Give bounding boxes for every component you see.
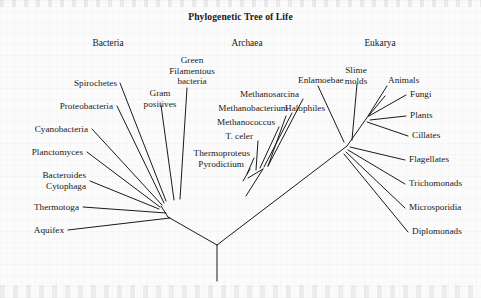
branch-root-to-bacteria — [168, 217, 217, 245]
taxon-label-diplomonads: Diplomonads — [412, 226, 481, 237]
taxon-label-flagellates: Flagellates — [409, 154, 481, 165]
taxon-label-aquifex: Aquifex — [0, 225, 64, 236]
branch-pyrodictium — [243, 169, 250, 181]
taxon-label-methanobacterium: Methanobacterium — [0, 103, 288, 114]
branch-t-celer — [256, 141, 258, 170]
taxon-label-cillates: Cillates — [412, 130, 481, 141]
branch-enlamoebae — [318, 86, 344, 142]
taxon-label-thermotoga: Thermotoga — [0, 202, 79, 213]
domain-label-bacteria: Bacteria — [48, 38, 168, 48]
branch-aquifex — [68, 218, 170, 230]
taxon-label-pyrodictium: Pyrodictium — [0, 159, 244, 170]
branch-microsporidia — [346, 152, 405, 208]
figure-canvas: Phylogenetic Tree of Life SpirochetesGra… — [0, 0, 481, 298]
branch-plants — [370, 116, 406, 120]
branch-trichomonads — [348, 150, 405, 184]
branch-thermotoga — [83, 207, 166, 213]
taxon-label-microsporidia: Microsporidia — [409, 202, 481, 213]
taxon-label-thermoproteus: Thermoproteus — [0, 148, 250, 159]
domain-label-archaea: Archaea — [187, 38, 307, 48]
branch-cillates — [367, 122, 408, 136]
taxon-label-green-filamentous-bacteria: Green Filamentous bacteria — [132, 55, 252, 87]
taxon-label-plants: Plants — [410, 110, 481, 121]
branch-flagellates — [350, 147, 405, 160]
branch-archaea-stem — [246, 169, 263, 196]
taxon-label-t-celer: T. celer — [0, 131, 253, 142]
taxon-label-methanosarcina: Methanosarcina — [0, 89, 299, 100]
taxon-label-spirochetes: Spirochetes — [0, 78, 117, 89]
taxon-label-animals: Animals — [388, 75, 481, 86]
branch-diplomonads — [344, 154, 408, 232]
branch-eukarya-stem — [347, 119, 366, 146]
taxon-label-methanococcus: Methanococcus — [0, 117, 275, 128]
branch-bacteria-stem — [161, 206, 168, 217]
domain-label-eukarya: Eukarya — [320, 38, 440, 48]
branch-bacteroides — [90, 181, 159, 209]
taxon-label-fungi: Fungi — [410, 89, 481, 100]
taxon-label-trichomonads: Trichomonads — [409, 178, 481, 189]
taxon-label-bacteroides-cytophaga: Bacteroides Cytophaga — [0, 170, 86, 191]
